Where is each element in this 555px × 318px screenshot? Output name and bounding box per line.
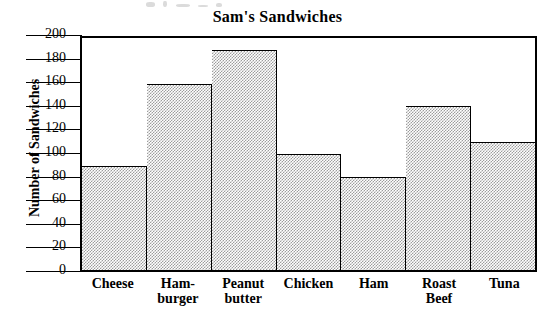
bar <box>471 142 535 270</box>
x-axis-tick-label: Cheese <box>80 274 145 316</box>
bar <box>341 177 406 270</box>
y-axis-tick-label: 20 <box>0 239 66 253</box>
y-axis-tick-label: 160 <box>0 74 66 88</box>
y-axis-tick-label: 0 <box>0 263 66 277</box>
y-axis-tick-label: 60 <box>0 192 66 206</box>
chart-title: Sam's Sandwiches <box>0 8 555 26</box>
y-axis-tick-label: 100 <box>0 145 66 159</box>
y-axis-tick-label: 120 <box>0 121 66 135</box>
bar <box>277 154 342 270</box>
x-axis-tick-label: Ham- burger <box>145 274 210 316</box>
bar <box>82 166 147 270</box>
bar <box>147 84 212 270</box>
bar <box>212 50 277 270</box>
y-axis-tick-label: 200 <box>0 27 66 41</box>
y-axis-tick-label: 40 <box>0 216 66 230</box>
x-axis-tick-label: Peanut butter <box>211 274 276 316</box>
x-axis-tick-label: Ham <box>341 274 406 316</box>
x-axis-tick-label: Roast Beef <box>406 274 471 316</box>
x-axis-tick-label: Chicken <box>276 274 341 316</box>
x-axis-tick-label: Tuna <box>472 274 537 316</box>
x-axis-labels: CheeseHam- burgerPeanut butterChickenHam… <box>80 274 537 316</box>
bar-series <box>82 38 535 270</box>
y-axis-tick-label: 180 <box>0 51 66 65</box>
y-axis-tick-label: 80 <box>0 169 66 183</box>
plot-area <box>80 36 537 272</box>
y-axis-tick-label: 140 <box>0 98 66 112</box>
bar <box>406 106 471 270</box>
